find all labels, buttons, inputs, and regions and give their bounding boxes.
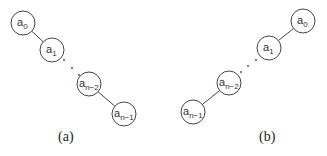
ellipsis-dot [247, 65, 249, 67]
node-a1: a1 [40, 38, 64, 62]
caption-b: (b) [259, 129, 275, 145]
ellipsis-dot [255, 59, 257, 61]
ellipsis-dot [71, 67, 73, 69]
diagram-canvas: a0a1an−2an−1a0a1an−2an−1 [0, 0, 327, 156]
node-a1: a1 [257, 36, 281, 60]
edge [278, 28, 293, 40]
diagram-b: a0a1an−2an−1 [181, 9, 315, 124]
ellipsis-dot [240, 71, 242, 73]
node-an-1: an−1 [112, 102, 136, 126]
node-a0: a0 [11, 11, 35, 35]
caption-a: (a) [58, 129, 74, 145]
node-an-2: an−2 [77, 72, 101, 96]
edge [202, 91, 219, 105]
node-an-2: an−2 [217, 71, 241, 95]
node-a0: a0 [291, 9, 315, 33]
diagram-a: a0a1an−2an−1 [11, 11, 136, 126]
node-an-1: an−1 [181, 100, 205, 124]
tree-diagrams: a0a1an−2an−1a0a1an−2an−1 (a) (b) [0, 0, 327, 156]
edge [32, 31, 43, 42]
ellipsis-dot [63, 59, 65, 61]
ellipsis-dot [78, 74, 80, 76]
edge [98, 92, 115, 106]
